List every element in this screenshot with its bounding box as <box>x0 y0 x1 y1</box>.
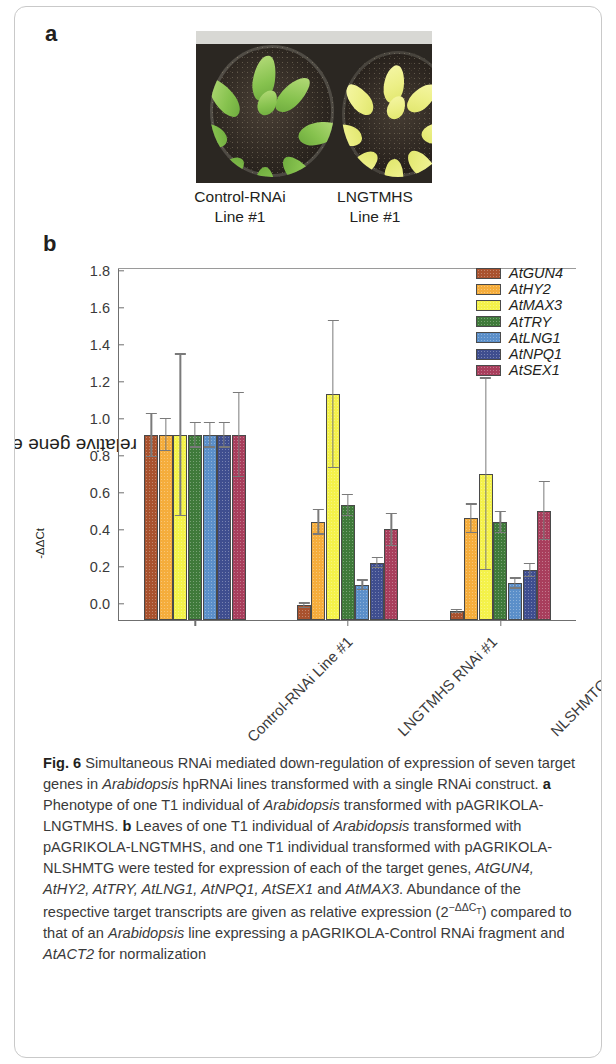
error-bar-cap-bottom <box>219 446 230 447</box>
y-axis-tick-mark <box>119 455 124 456</box>
error-bar <box>180 353 181 516</box>
bar-atmax3[interactable] <box>173 269 187 620</box>
error-bar <box>209 422 210 448</box>
error-bar-cap-bottom <box>495 532 506 533</box>
legend-swatch <box>476 268 501 279</box>
error-bar-cap-top <box>357 579 368 580</box>
x-axis-label: Control-RNAi Line #1 <box>244 633 356 745</box>
error-bar-cap-top <box>313 509 324 510</box>
error-bar-cap-top <box>371 557 382 558</box>
error-bar-cap-top <box>298 602 309 603</box>
bar-atlng1[interactable] <box>203 269 217 620</box>
caption-figure-number: Fig. 6 <box>43 755 81 771</box>
error-bar <box>391 513 392 546</box>
bar-attry[interactable] <box>188 269 202 620</box>
error-bar <box>194 422 195 448</box>
bar-atgun4[interactable] <box>297 269 311 620</box>
bar-rect <box>464 518 478 620</box>
error-bar-cap-top <box>219 422 230 423</box>
error-bar-cap-top <box>204 422 215 423</box>
legend-swatch <box>476 284 501 295</box>
y-axis-tick: 0.8 <box>90 448 119 464</box>
error-bar-cap-bottom <box>480 569 491 570</box>
legend-swatch <box>476 365 501 376</box>
error-bar <box>362 579 363 590</box>
y-axis-tick-mark <box>119 418 124 419</box>
error-bar-cap-bottom <box>509 587 520 588</box>
bar-atsex1[interactable] <box>384 269 398 620</box>
legend-label: AtNPQ1 <box>509 346 562 362</box>
legend-item-atmax3[interactable]: AtMAX3 <box>476 297 563 313</box>
panel-a-letter: a <box>45 21 57 47</box>
error-bar <box>529 563 530 578</box>
error-bar <box>347 494 348 516</box>
legend-item-atgun4[interactable]: AtGUN4 <box>476 265 563 281</box>
y-axis-tick: 1.0 <box>90 411 119 427</box>
error-bar-cap-bottom <box>204 446 215 447</box>
figure-caption: Fig. 6 Simultaneous RNAi mediated down-r… <box>43 753 583 965</box>
error-bar-cap-bottom <box>146 456 157 457</box>
y-axis-tick: 0.4 <box>90 522 119 538</box>
error-bar <box>500 511 501 533</box>
bar-atgun4[interactable] <box>144 269 158 620</box>
photo-label-lngtmhs-line1: LNGTMHS <box>315 187 435 207</box>
bar-rect <box>188 435 202 620</box>
legend-swatch <box>476 300 501 311</box>
error-bar-cap-bottom <box>175 515 186 516</box>
plant-phenotype-photo <box>196 31 432 183</box>
bar-rect <box>203 435 217 620</box>
bar-rect <box>523 570 537 620</box>
legend-item-athy2[interactable]: AtHY2 <box>476 281 563 297</box>
legend-item-atsex1[interactable]: AtSEX1 <box>476 362 563 378</box>
error-bar <box>151 413 152 457</box>
legend-item-atlng1[interactable]: AtLNG1 <box>476 330 563 346</box>
bar-attry[interactable] <box>341 269 355 620</box>
bar-athy2[interactable] <box>159 269 173 620</box>
x-axis-label: NLSHMTG RNAi #1 <box>547 633 602 739</box>
x-axis-tick <box>347 620 348 626</box>
legend-label: AtHY2 <box>509 281 551 297</box>
photo-background-strip <box>196 31 432 44</box>
error-bar-cap-bottom <box>357 589 368 590</box>
bar-rect <box>144 435 158 620</box>
error-bar-cap-top <box>509 577 520 578</box>
bar-atnpq1[interactable] <box>217 269 231 620</box>
error-bar-cap-top <box>386 513 397 514</box>
bar-atmax3[interactable] <box>326 269 340 620</box>
error-bar-cap-bottom <box>451 612 462 613</box>
bar-athy2[interactable] <box>311 269 325 620</box>
error-bar-cap-top <box>189 422 200 423</box>
bar-rect <box>159 435 173 620</box>
legend-label: AtLNG1 <box>509 330 561 346</box>
error-bar <box>456 609 457 613</box>
error-bar-cap-bottom <box>466 532 477 533</box>
error-bar-cap-bottom <box>524 576 535 577</box>
bar-atgun4[interactable] <box>450 269 464 620</box>
error-bar-cap-top <box>328 320 339 321</box>
y-axis-label-exponent: -ΔΔCt <box>35 528 47 559</box>
bar-rect <box>217 435 231 620</box>
error-bar-cap-bottom <box>298 607 309 608</box>
legend-item-attry[interactable]: AtTRY <box>476 314 563 330</box>
error-bar-cap-bottom <box>328 467 339 468</box>
photo-label-lngtmhs: LNGTMHS Line #1 <box>315 187 435 227</box>
y-axis-tick-mark <box>119 344 124 345</box>
error-bar-cap-top <box>495 511 506 512</box>
error-bar-cap-top <box>539 481 550 482</box>
bar-atnpq1[interactable] <box>370 269 384 620</box>
error-bar <box>303 602 304 608</box>
error-bar-cap-top <box>451 609 462 610</box>
y-axis-tick: 1.2 <box>90 374 119 390</box>
error-bar <box>543 481 544 540</box>
error-bar <box>165 418 166 451</box>
photo-label-control-line1: Control-RNAi <box>175 187 305 207</box>
photo-label-control-line2: Line #1 <box>175 207 305 227</box>
error-bar <box>318 509 319 535</box>
bar-atsex1[interactable] <box>232 269 246 620</box>
bar-rect <box>311 522 325 620</box>
error-bar <box>485 377 486 570</box>
bar-atlng1[interactable] <box>355 269 369 620</box>
chart-legend: AtGUN4AtHY2AtMAX3AtTRYAtLNG1AtNPQ1AtSEX1 <box>476 265 563 378</box>
y-axis-tick: 1.8 <box>90 263 119 279</box>
legend-item-atnpq1[interactable]: AtNPQ1 <box>476 346 563 362</box>
